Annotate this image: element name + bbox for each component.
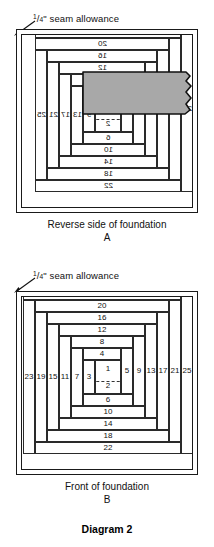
log-piece-21: 21 xyxy=(47,62,59,168)
log-piece-17: 17 xyxy=(157,312,169,430)
center-piece-1-label: 1 xyxy=(96,365,120,373)
figure-caption-b: Front of foundation B xyxy=(0,481,214,507)
log-piece-label: 7 xyxy=(75,373,79,381)
log-piece-label: 22 xyxy=(104,444,113,452)
log-piece-25: 25 xyxy=(35,50,47,180)
center-piece-group: 12 xyxy=(95,360,121,394)
log-piece-20: 20 xyxy=(35,300,169,312)
log-piece-5: 5 xyxy=(121,348,133,394)
log-piece-label: 5 xyxy=(125,367,129,375)
log-piece-label: 10 xyxy=(104,146,113,154)
figure-letter-a: A xyxy=(0,232,214,245)
log-piece-18: 18 xyxy=(47,168,169,180)
log-piece-label: 16 xyxy=(98,314,107,322)
log-piece-11: 11 xyxy=(59,336,71,418)
log-piece-label: 18 xyxy=(104,170,113,178)
log-piece-6: 6 xyxy=(83,394,133,406)
log-piece-label: 21 xyxy=(171,367,180,375)
log-piece-22: 22 xyxy=(35,442,181,454)
diagram-title: Diagram 2 xyxy=(0,523,214,535)
log-piece-18: 18 xyxy=(47,430,169,442)
log-piece-12: 12 xyxy=(59,324,145,336)
log-piece-23: 23 xyxy=(23,300,35,454)
center-piece-2-label: 2 xyxy=(96,120,120,128)
log-piece-15: 15 xyxy=(47,324,59,430)
log-piece-20: 20 xyxy=(35,38,169,50)
log-piece-label: 3 xyxy=(87,373,91,381)
log-piece-label: 14 xyxy=(104,158,113,166)
log-piece-label: 8 xyxy=(100,338,104,346)
log-piece-22: 22 xyxy=(35,180,181,192)
log-piece-label: 17 xyxy=(61,111,70,119)
fabric-patch-gray xyxy=(82,71,193,115)
log-piece-13: 13 xyxy=(145,324,157,418)
log-piece-label: 12 xyxy=(98,326,107,334)
log-piece-24: 24 xyxy=(35,34,181,38)
log-piece-14: 14 xyxy=(59,418,157,430)
log-piece-label: 20 xyxy=(98,40,107,48)
log-piece-label: 25 xyxy=(37,111,46,119)
seam-allowance-text-a: seam allowance xyxy=(47,13,119,24)
log-piece-3: 3 xyxy=(83,360,95,394)
log-piece-21: 21 xyxy=(169,300,181,442)
caption-text-a: Reverse side of foundation xyxy=(48,219,167,230)
log-piece-label: 24 xyxy=(104,34,113,36)
log-piece-25: 25 xyxy=(181,296,193,454)
log-piece-label: 13 xyxy=(73,111,82,119)
log-piece-8: 8 xyxy=(71,336,133,348)
log-piece-label: 18 xyxy=(104,432,113,440)
seam-allowance-callout-b: 1/4" seam allowance xyxy=(33,271,119,281)
log-piece-label: 25 xyxy=(183,367,192,375)
log-piece-label: 21 xyxy=(49,111,58,119)
foundation-block-inner-b: 1234567891011121314151617181920212223242… xyxy=(21,296,193,470)
log-piece-16: 16 xyxy=(47,50,157,62)
log-piece-4: 4 xyxy=(83,348,121,360)
log-piece-14: 14 xyxy=(59,156,157,168)
foundation-block-b: 1234567891011121314151617181920212223242… xyxy=(16,291,198,475)
log-piece-label: 6 xyxy=(106,134,110,142)
log-piece-16: 16 xyxy=(47,312,157,324)
seam-allowance-text-b: seam allowance xyxy=(47,270,119,281)
log-piece-label: 22 xyxy=(104,182,113,190)
log-piece-6: 6 xyxy=(83,132,133,144)
caption-text-b: Front of foundation xyxy=(65,481,149,492)
log-piece-label: 19 xyxy=(37,373,46,381)
log-piece-label: 23 xyxy=(25,373,34,381)
log-piece-19: 19 xyxy=(35,312,47,442)
log-piece-label: 24 xyxy=(98,296,107,298)
log-piece-label: 9 xyxy=(137,367,141,375)
center-piece-2-label: 2 xyxy=(96,382,120,390)
log-piece-label: 11 xyxy=(61,373,69,381)
log-piece-label: 17 xyxy=(159,367,168,375)
log-piece-24: 24 xyxy=(23,296,181,300)
seam-allowance-callout-a: 1/4" seam allowance xyxy=(33,14,119,24)
log-piece-7: 7 xyxy=(71,348,83,406)
log-piece-17: 17 xyxy=(59,74,71,156)
figure-caption-a: Reverse side of foundation A xyxy=(0,219,214,245)
log-piece-label: 20 xyxy=(98,302,107,310)
log-piece-9: 9 xyxy=(133,336,145,406)
foundation-block-a: 1294361387101712111421161518252019222423… xyxy=(16,29,198,213)
log-piece-label: 16 xyxy=(98,52,107,60)
figure-letter-b: B xyxy=(0,494,214,507)
foundation-block-inner-a: 1294361387101712111421161518252019222423… xyxy=(21,34,193,208)
log-piece-label: 6 xyxy=(106,396,110,404)
log-piece-10: 10 xyxy=(71,144,145,156)
log-piece-label: 14 xyxy=(104,420,113,428)
log-piece-label: 15 xyxy=(49,373,58,381)
log-piece-label: 4 xyxy=(100,350,104,358)
log-piece-label: 13 xyxy=(147,367,156,375)
log-piece-label: 10 xyxy=(104,408,113,416)
log-piece-10: 10 xyxy=(71,406,145,418)
